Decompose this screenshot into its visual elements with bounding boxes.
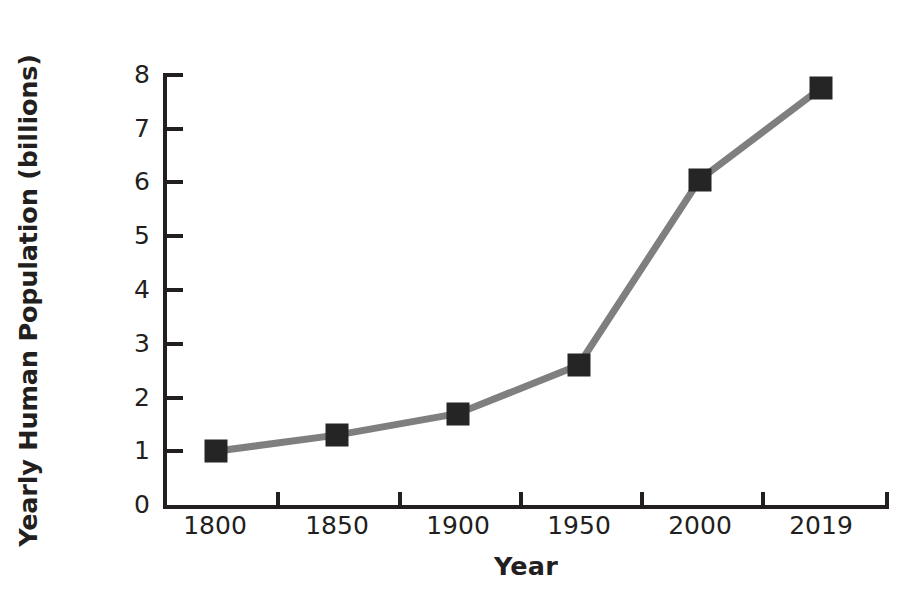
y-tick-mark <box>167 342 183 346</box>
y-tick-mark <box>167 234 183 238</box>
chart-figure: Yearly Human Population (billions) Year … <box>0 0 905 601</box>
data-point-marker <box>325 424 348 447</box>
y-tick-mark <box>167 288 183 292</box>
y-tick-mark <box>167 449 183 453</box>
y-tick-label: 7 <box>124 116 150 141</box>
data-point-marker <box>446 402 469 425</box>
x-tick-mark <box>885 492 889 506</box>
y-tick-label: 2 <box>124 385 150 410</box>
x-tick-mark <box>519 492 523 506</box>
x-tick-label: 1950 <box>519 513 639 538</box>
y-tick-label: 8 <box>124 62 150 87</box>
x-axis-spine <box>163 505 889 509</box>
data-point-marker <box>688 168 711 191</box>
x-tick-label: 1900 <box>398 513 518 538</box>
x-tick-mark <box>640 492 644 506</box>
y-tick-labels: 8 7 6 5 4 3 2 1 0 <box>116 0 150 601</box>
y-tick-label: 3 <box>124 331 150 356</box>
x-tick-label: 2019 <box>761 513 881 538</box>
x-tick-mark <box>761 492 765 506</box>
y-tick-mark <box>167 180 183 184</box>
x-axis-title: Year <box>163 551 889 581</box>
x-tick-label: 1800 <box>155 513 275 538</box>
y-tick-label: 4 <box>124 277 150 302</box>
data-point-marker <box>809 77 832 100</box>
y-tick-mark <box>167 127 183 131</box>
y-tick-mark <box>167 73 183 77</box>
y-tick-label: 0 <box>124 492 150 517</box>
x-tick-mark <box>276 492 280 506</box>
y-tick-label: 5 <box>124 223 150 248</box>
x-tick-mark <box>398 492 402 506</box>
y-axis-title: Yearly Human Population (billions) <box>0 0 56 601</box>
x-tick-label: 2000 <box>640 513 760 538</box>
y-tick-label: 6 <box>124 169 150 194</box>
y-tick-mark <box>167 396 183 400</box>
x-tick-label: 1850 <box>277 513 397 538</box>
y-tick-label: 1 <box>124 438 150 463</box>
data-point-marker <box>567 354 590 377</box>
data-point-marker <box>204 440 227 463</box>
